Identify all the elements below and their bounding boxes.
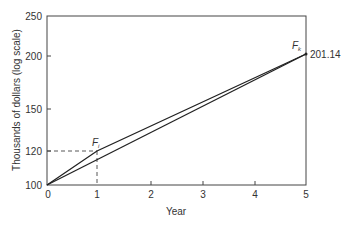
end-value-label: 201.14 bbox=[310, 49, 341, 60]
x-tick-label: 1 bbox=[94, 189, 100, 200]
x-tick-label: 0 bbox=[45, 189, 51, 200]
x-tick-label: 5 bbox=[303, 189, 309, 200]
y-tick-label: 100 bbox=[25, 180, 42, 191]
fi-label: Fi bbox=[92, 137, 100, 149]
y-tick-label: 250 bbox=[25, 11, 42, 22]
x-tick-label: 4 bbox=[252, 189, 258, 200]
x-tick-label: 2 bbox=[148, 189, 154, 200]
y-tick-label: 200 bbox=[25, 51, 42, 62]
series-line-direct bbox=[47, 54, 306, 185]
x-axis-title: Year bbox=[166, 206, 187, 217]
end-point-marker bbox=[305, 53, 308, 56]
fk-label: Fk bbox=[292, 40, 302, 52]
plot-frame bbox=[47, 16, 306, 185]
y-tick-label: 150 bbox=[25, 104, 42, 115]
y-axis-title: Thousands of dollars (log scale) bbox=[11, 29, 22, 171]
chart: 250 200 150 120 100 0 1 2 3 4 5 Year Tho… bbox=[0, 0, 352, 226]
x-tick-label: 3 bbox=[200, 189, 206, 200]
y-tick-label: 120 bbox=[25, 146, 42, 157]
x-ticks bbox=[151, 181, 255, 185]
y-ticks bbox=[47, 56, 51, 151]
